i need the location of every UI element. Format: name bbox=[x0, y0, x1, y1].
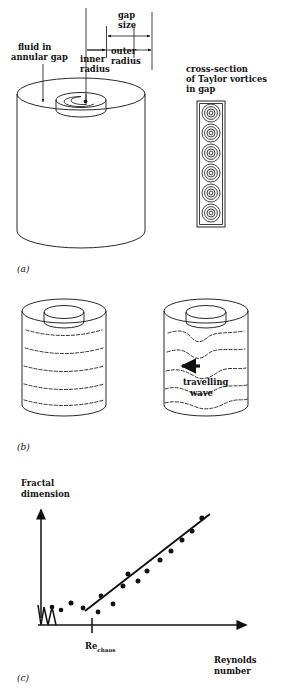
axis-center-dot bbox=[84, 100, 88, 104]
vortex-cell bbox=[202, 124, 220, 142]
inner-cylinder bbox=[56, 93, 106, 117]
vortex-caption-line3: in gap bbox=[186, 84, 215, 94]
data-point bbox=[126, 572, 131, 577]
data-point bbox=[190, 529, 195, 534]
fluid-label-line2: annular gap bbox=[11, 52, 68, 62]
vortex-caption-line1: cross-section bbox=[186, 64, 248, 74]
panel-label-b: (b) bbox=[17, 442, 30, 452]
figure-canvas: gap size outer radius inner radius fluid… bbox=[0, 0, 288, 695]
inner-radius-label-line2: radius bbox=[80, 64, 110, 74]
x-axis-label-line1: Reynolds bbox=[214, 655, 257, 665]
data-point bbox=[111, 602, 116, 607]
data-point bbox=[69, 601, 74, 606]
cylinder-taylor-vortex-flow bbox=[22, 299, 106, 416]
y-axis-label-line2: dimension bbox=[21, 489, 70, 499]
vortex-cell bbox=[202, 204, 220, 222]
panel-label-a: (a) bbox=[17, 264, 30, 274]
vortex-cell bbox=[202, 144, 220, 162]
data-point bbox=[199, 515, 204, 520]
data-point bbox=[158, 558, 163, 563]
outer-radius-label-line1: outer bbox=[111, 46, 137, 56]
travelling-wave-label-line1: travelling bbox=[183, 377, 229, 387]
travelling-wave-label-line2: wave bbox=[189, 388, 213, 398]
panel-a: gap size outer radius inner radius fluid… bbox=[11, 8, 267, 274]
data-point bbox=[136, 579, 141, 584]
data-point bbox=[96, 610, 101, 615]
outer-radius-label-line2: radius bbox=[111, 56, 141, 66]
outer-cylinder bbox=[17, 78, 145, 248]
data-point bbox=[50, 605, 55, 610]
data-point bbox=[145, 569, 150, 574]
vortex-cell bbox=[202, 184, 220, 202]
inner-radius-label-line1: inner bbox=[80, 54, 106, 64]
panel-b: travelling wave (b) bbox=[17, 299, 248, 452]
fluid-label-line1: fluid in bbox=[18, 42, 51, 52]
chart-series-plateau bbox=[50, 601, 86, 613]
panel-c-chart: Fractal dimension Rechaos Reynolds numbe… bbox=[17, 478, 257, 683]
taylor-couette-figure: gap size outer radius inner radius fluid… bbox=[0, 0, 288, 695]
data-point bbox=[180, 538, 185, 543]
data-point bbox=[99, 594, 104, 599]
gap-size-label-line1: gap bbox=[118, 10, 135, 20]
data-point bbox=[59, 608, 64, 613]
panel-label-c: (c) bbox=[17, 673, 30, 683]
y-axis-label-line1: Fractal bbox=[21, 478, 54, 488]
vortex-cell bbox=[202, 104, 220, 122]
x-tick-label-rechaos: Rechaos bbox=[85, 641, 115, 653]
chart-trend-line bbox=[85, 514, 210, 611]
cylinder-wavy-vortex-flow: travelling wave bbox=[164, 299, 248, 416]
data-point bbox=[121, 584, 126, 589]
vortex-caption-line2: of Taylor vortices bbox=[186, 74, 267, 84]
gap-size-label-line2: size bbox=[118, 20, 136, 30]
vortex-cell bbox=[202, 164, 220, 182]
x-axis-label-line2: number bbox=[214, 666, 251, 676]
data-point bbox=[169, 549, 174, 554]
taylor-vortex-column bbox=[197, 101, 225, 227]
data-point bbox=[81, 606, 86, 611]
